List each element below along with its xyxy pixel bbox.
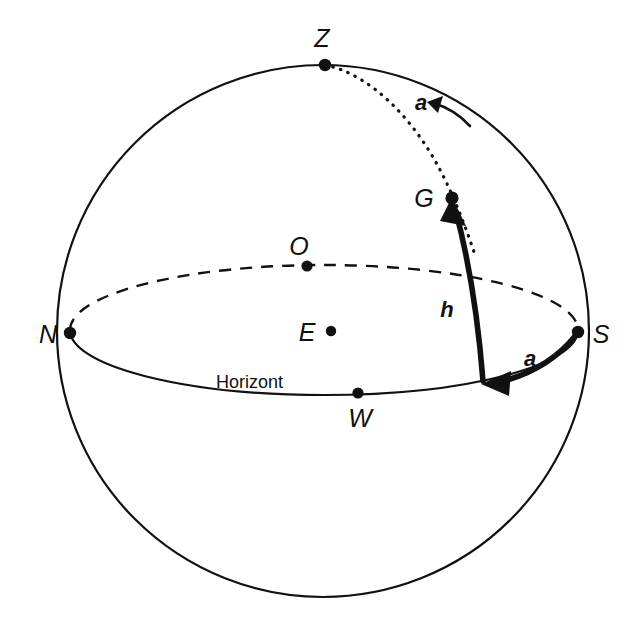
label-horizon: Horizont [216,372,283,392]
label-zenith: Z [313,24,330,52]
label-altitude: h [440,297,453,322]
point-marker-star [445,191,458,204]
label-star: G [414,184,433,212]
point-marker-west [352,387,363,398]
point-marker-zenith [319,59,331,71]
sphere-outline [57,65,589,597]
azimuth-arrowhead [481,371,511,396]
celestial-sphere-diagram: Z N S O W E G Horizont a a h [0,0,637,636]
label-azimuth-top: a [415,90,427,115]
horizon-back-arc [70,265,578,330]
label-south: S [593,320,610,348]
altitude-arrow-shaft [456,212,483,381]
vertical-circle-arc [325,65,474,252]
point-marker-south [572,326,584,338]
label-north: N [39,320,58,348]
point-marker-ost [301,260,312,271]
point-marker-north [64,327,76,339]
label-west: W [348,404,374,432]
label-ost: O [289,232,308,260]
point-marker-observer [326,326,336,336]
label-azimuth-bottom: a [524,346,536,371]
label-observer: E [299,318,316,346]
celestial-sphere-canvas: Z N S O W E G Horizont a a h [0,0,637,636]
